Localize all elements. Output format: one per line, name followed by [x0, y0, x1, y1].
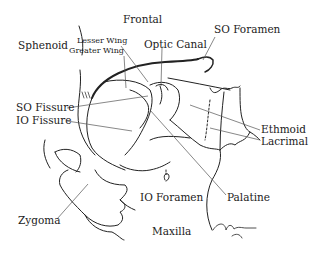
orbit-diagram: Frontal Sphenoid Lesser Wing Greater Win…: [0, 0, 316, 253]
label-zygoma: Zygoma: [18, 215, 61, 226]
label-so-foramen: SO Foramen: [214, 24, 280, 35]
label-io-fissure: IO Fissure: [16, 115, 72, 126]
label-greater-wing: Greater Wing: [69, 47, 124, 55]
label-lacrimal: Lacrimal: [261, 136, 308, 147]
label-optic-canal: Optic Canal: [144, 39, 207, 50]
label-frontal: Frontal: [123, 14, 162, 25]
label-maxilla: Maxilla: [152, 226, 191, 237]
label-sphenoid: Sphenoid: [18, 40, 68, 51]
label-so-fissure: SO Fissure: [16, 102, 75, 113]
label-ethmoid: Ethmoid: [261, 124, 306, 135]
label-lesser-wing: Lesser Wing: [77, 37, 127, 45]
label-palatine: Palatine: [227, 192, 270, 203]
label-io-foramen: IO Foramen: [140, 192, 203, 203]
